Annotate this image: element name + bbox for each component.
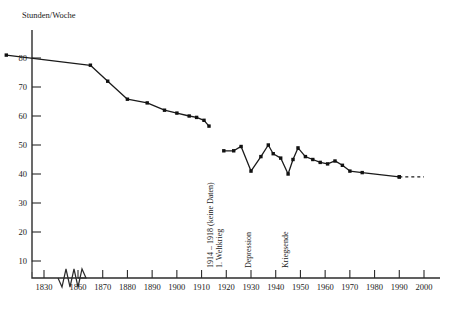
data-point-1975: [361, 171, 364, 174]
data-point-1967: [341, 164, 344, 167]
data-point-1919: [222, 149, 225, 152]
data-point-1900: [175, 111, 178, 114]
x-tick-label-1870: 1870: [94, 282, 111, 292]
data-point-1952: [304, 155, 307, 158]
annotation-weltkrieg-line2: 1. Weltkrieg: [215, 229, 224, 268]
data-point-1947: [291, 158, 294, 161]
data-point-1955: [311, 158, 314, 161]
axis-corner-stub: [32, 272, 58, 278]
data-point-1970: [348, 169, 351, 172]
data-point-1923: [232, 149, 235, 152]
annotation-weltkrieg-line1: 1914 – 1918 (keine Daten): [206, 182, 215, 268]
data-points-group: [5, 53, 401, 178]
annotation-depression: Depression: [244, 232, 253, 268]
data-point-1958: [319, 161, 322, 164]
y-tick-label-60: 60: [19, 111, 28, 121]
x-tick-label-1830: 1830: [36, 282, 53, 292]
annotations-group: 1914 – 1918 (keine Daten)1. WeltkriegDep…: [206, 182, 290, 268]
x-tick-label-1860: 1860: [70, 282, 87, 292]
line-chart: Stunden/Woche 8070605040302010 183018601…: [0, 0, 456, 314]
data-point-1939: [272, 152, 275, 155]
y-tick-label-50: 50: [19, 140, 28, 150]
data-point-1872: [106, 80, 109, 83]
data-point-1865: [89, 64, 92, 67]
x-tick-label-1930: 1930: [243, 282, 260, 292]
x-tick-label-1990: 1990: [391, 282, 408, 292]
x-tick-label-1880: 1880: [119, 282, 136, 292]
data-point-1945: [286, 172, 289, 175]
data-point-1831: [5, 53, 8, 56]
data-point-1937: [267, 143, 270, 146]
data-point-1934: [259, 155, 262, 158]
x-tick-label-1900: 1900: [168, 282, 185, 292]
y-tick-label-20: 20: [19, 227, 28, 237]
data-point-1880: [126, 98, 129, 101]
data-point-1949: [296, 146, 299, 149]
x-tick-group: 1830186018701880189019001910192019301940…: [36, 270, 433, 292]
x-tick-label-1910: 1910: [193, 282, 210, 292]
data-point-1926: [239, 145, 242, 148]
y-tick-group: 8070605040302010: [19, 53, 42, 266]
x-tick-label-1980: 1980: [366, 282, 383, 292]
data-point-1964: [333, 159, 336, 162]
chart-container: Stunden/Woche 8070605040302010 183018601…: [0, 0, 456, 314]
x-tick-label-1970: 1970: [341, 282, 358, 292]
data-point-1961: [326, 162, 329, 165]
x-tick-label-1890: 1890: [144, 282, 161, 292]
data-point-1942: [279, 156, 282, 159]
data-series-group: [6, 55, 424, 177]
x-tick-label-1940: 1940: [267, 282, 284, 292]
y-tick-label-40: 40: [19, 169, 28, 179]
x-tick-label-2000: 2000: [416, 282, 433, 292]
data-point-1905: [188, 114, 191, 117]
data-point-1895: [163, 109, 166, 112]
data-point-1913: [207, 124, 210, 127]
x-tick-label-1920: 1920: [218, 282, 235, 292]
y-tick-label-30: 30: [19, 198, 28, 208]
data-point-1888: [146, 101, 149, 104]
y-tick-label-10: 10: [19, 256, 28, 266]
data-point-1911: [202, 119, 205, 122]
data-point-1930: [249, 169, 252, 172]
x-tick-label-1950: 1950: [292, 282, 309, 292]
y-axis-title: Stunden/Woche: [22, 10, 76, 20]
data-point-1990: [398, 175, 401, 178]
data-point-1908: [195, 116, 198, 119]
x-tick-label-1960: 1960: [317, 282, 334, 292]
y-tick-label-70: 70: [19, 82, 28, 92]
annotation-kriegsende: Kriegsende: [281, 231, 290, 268]
